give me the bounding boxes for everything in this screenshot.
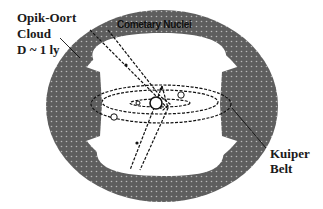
oort-cloud-label-line1: Opik-Oort (17, 10, 77, 25)
planet-marker (178, 92, 184, 98)
sun (150, 97, 162, 109)
oort-cloud-label-line3: D ~ 1 ly (17, 42, 60, 57)
comet-marker (160, 88, 163, 91)
comet-marker (124, 63, 127, 66)
solar-system-diagram: Cometary Nuclei Opik-Oort Cloud D ~ 1 ly… (0, 0, 323, 209)
comet-marker (135, 141, 138, 144)
planet-marker (136, 101, 140, 105)
cometary-nuclei-label: Cometary Nuclei (117, 19, 192, 30)
planet-marker (111, 114, 117, 120)
kuiper-belt-label-line2: Belt (270, 161, 293, 176)
kuiper-belt-label-line1: Kuiper (270, 146, 310, 161)
oort-cloud-label-line2: Cloud (17, 26, 52, 41)
